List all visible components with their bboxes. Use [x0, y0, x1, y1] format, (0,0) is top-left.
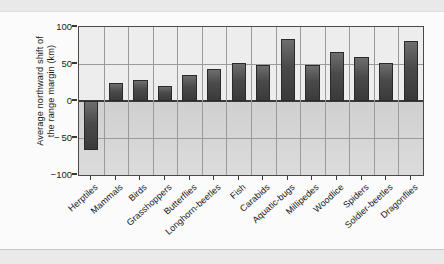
y-tick-mark [72, 173, 77, 174]
gridline-vertical [226, 27, 227, 175]
x-tick-mark [336, 176, 337, 180]
x-tick-mark [311, 176, 312, 180]
bar [330, 52, 344, 101]
x-category-label: Fish [228, 182, 247, 201]
bar [404, 41, 418, 101]
x-tick-mark [213, 176, 214, 180]
y-tick-mark [72, 62, 77, 63]
y-tick-label: −100 [51, 169, 72, 180]
gridline-vertical [398, 27, 399, 175]
gridline-vertical [251, 27, 252, 175]
x-tick-mark [189, 176, 190, 180]
bar [256, 65, 270, 101]
gridline-vertical [300, 27, 301, 175]
x-tick-mark [115, 176, 116, 180]
x-tick-mark [287, 176, 288, 180]
x-tick-mark [262, 176, 263, 180]
y-tick-label: 0 [67, 95, 72, 106]
x-tick-mark [90, 176, 91, 180]
y-tick-label: 100 [56, 21, 72, 32]
bar [281, 39, 295, 101]
x-tick-mark [361, 176, 362, 180]
bar [84, 101, 98, 150]
gridline-vertical [349, 27, 350, 175]
y-axis-title-line-1: Average northward shift of [35, 11, 46, 171]
plot-area [78, 26, 424, 176]
gridline-vertical [104, 27, 105, 175]
figure-top-band [0, 0, 444, 12]
x-axis-category-labels: HerptilesMammalsBirdsGrasshoppersButterf… [78, 176, 424, 256]
bar [133, 80, 147, 101]
x-tick-mark [164, 176, 165, 180]
gridline-vertical [276, 27, 277, 175]
y-axis-tick-labels: 100500− 50−100 [50, 26, 72, 176]
bar [109, 83, 123, 101]
gridline-vertical [177, 27, 178, 175]
bar [305, 65, 319, 101]
bar [207, 69, 221, 101]
y-tick-mark [72, 99, 77, 100]
bar [354, 57, 368, 101]
y-tick-label: 50 [61, 58, 72, 69]
bar [232, 63, 246, 101]
gridline-vertical [202, 27, 203, 175]
gridline-vertical [325, 27, 326, 175]
x-tick-mark [385, 176, 386, 180]
gridline-vertical [153, 27, 154, 175]
gridline-vertical [374, 27, 375, 175]
y-tick-mark [72, 136, 77, 137]
x-tick-mark [139, 176, 140, 180]
gridline-vertical [128, 27, 129, 175]
bar [379, 63, 393, 101]
bar [182, 75, 196, 101]
x-tick-mark [410, 176, 411, 180]
y-tick-mark [72, 25, 77, 26]
x-tick-mark [238, 176, 239, 180]
y-tick-label: − 50 [54, 132, 72, 143]
bar [158, 86, 172, 101]
